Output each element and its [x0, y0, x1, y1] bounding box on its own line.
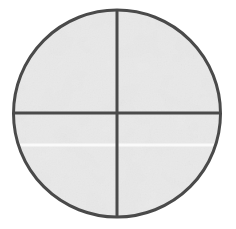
- figure-canvas: [0, 0, 236, 229]
- crosshair-circle-figure: [0, 0, 236, 229]
